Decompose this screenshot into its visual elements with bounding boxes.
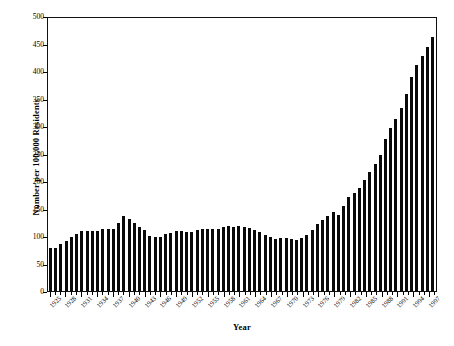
bar bbox=[305, 235, 308, 291]
plot-area bbox=[47, 17, 437, 292]
bar bbox=[285, 238, 288, 291]
x-tick-mark bbox=[218, 292, 219, 295]
bar bbox=[190, 232, 193, 291]
bar bbox=[384, 139, 387, 291]
x-tick-label: 1976 bbox=[316, 295, 330, 309]
bar bbox=[279, 238, 282, 291]
x-axis-title: Year bbox=[47, 322, 437, 332]
bar bbox=[405, 94, 408, 291]
x-tick-mark bbox=[202, 292, 203, 295]
x-tick-label: 1994 bbox=[411, 295, 425, 309]
bar bbox=[326, 216, 329, 291]
x-tick-label: 1988 bbox=[380, 295, 394, 309]
bar bbox=[201, 229, 204, 291]
x-tick-mark bbox=[60, 292, 61, 295]
bar bbox=[107, 229, 110, 291]
bar bbox=[169, 233, 172, 291]
bar bbox=[269, 237, 272, 291]
x-tick-mark bbox=[108, 292, 109, 295]
bar bbox=[96, 231, 99, 291]
bar bbox=[128, 219, 131, 291]
x-tick-mark bbox=[139, 292, 140, 295]
bar bbox=[426, 47, 429, 291]
bar bbox=[112, 229, 115, 291]
x-tick-label: 1982 bbox=[348, 295, 362, 309]
bar bbox=[295, 240, 298, 291]
bar bbox=[431, 37, 434, 291]
x-tick-label: 1970 bbox=[285, 295, 299, 309]
x-tick-mark bbox=[392, 292, 393, 295]
bar-series bbox=[48, 18, 436, 291]
x-tick-label: 1952 bbox=[190, 295, 204, 309]
bar bbox=[374, 164, 377, 291]
x-tick-label: 1985 bbox=[364, 295, 378, 309]
bar bbox=[159, 237, 162, 291]
bar bbox=[196, 230, 199, 291]
x-tick-mark bbox=[171, 292, 172, 295]
bar bbox=[353, 193, 356, 291]
bar bbox=[138, 227, 141, 291]
x-tick-label: 1943 bbox=[143, 295, 157, 309]
x-tick-mark bbox=[424, 292, 425, 295]
bar bbox=[117, 223, 120, 291]
bar bbox=[91, 231, 94, 291]
bar bbox=[65, 241, 68, 291]
bar bbox=[363, 180, 366, 291]
bar bbox=[253, 230, 256, 291]
bar bbox=[342, 206, 345, 291]
bar bbox=[274, 239, 277, 291]
x-tick-label: 1964 bbox=[253, 295, 267, 309]
x-tick-label: 1925 bbox=[48, 295, 62, 309]
bar bbox=[347, 197, 350, 291]
bar bbox=[389, 128, 392, 291]
x-tick-label: 1991 bbox=[395, 295, 409, 309]
bar bbox=[311, 230, 314, 291]
bar bbox=[237, 226, 240, 291]
x-tick-mark bbox=[155, 292, 156, 295]
bar bbox=[133, 223, 136, 291]
bar bbox=[80, 231, 83, 292]
bar bbox=[101, 229, 104, 291]
bar bbox=[70, 237, 73, 291]
bar bbox=[264, 235, 267, 291]
bar bbox=[143, 230, 146, 291]
x-tick-mark bbox=[313, 292, 314, 295]
bar bbox=[258, 232, 261, 291]
bar bbox=[86, 231, 89, 292]
x-tick-label: 1940 bbox=[127, 295, 141, 309]
bar bbox=[379, 155, 382, 291]
x-tick-label: 1979 bbox=[332, 295, 346, 309]
bar bbox=[211, 229, 214, 291]
x-tick-mark bbox=[234, 292, 235, 295]
x-tick-mark bbox=[297, 292, 298, 295]
bar bbox=[164, 234, 167, 291]
x-tick-mark bbox=[329, 292, 330, 295]
x-tick-label: 1934 bbox=[95, 295, 109, 309]
bar bbox=[75, 234, 78, 291]
bar bbox=[227, 226, 230, 291]
bar bbox=[154, 237, 157, 291]
bar bbox=[337, 215, 340, 291]
bar bbox=[148, 236, 151, 291]
x-tick-label: 1928 bbox=[63, 295, 77, 309]
bar bbox=[321, 220, 324, 291]
bar bbox=[175, 231, 178, 291]
x-tick-mark bbox=[92, 292, 93, 295]
bar bbox=[217, 229, 220, 291]
bar bbox=[59, 244, 62, 291]
bar bbox=[222, 227, 225, 291]
x-tick-label: 1973 bbox=[301, 295, 315, 309]
bar bbox=[368, 172, 371, 291]
x-tick-mark bbox=[76, 292, 77, 295]
x-tick-label: 1955 bbox=[206, 295, 220, 309]
x-tick-mark bbox=[361, 292, 362, 295]
x-tick-mark bbox=[345, 292, 346, 295]
bar bbox=[400, 108, 403, 291]
bar bbox=[54, 248, 57, 291]
bar bbox=[300, 238, 303, 291]
x-tick-label: 1937 bbox=[111, 295, 125, 309]
chart-container: Number per 100,000 Residents 05010015020… bbox=[0, 0, 454, 346]
x-tick-label: 1961 bbox=[237, 295, 251, 309]
bar bbox=[332, 212, 335, 291]
bar bbox=[394, 119, 397, 291]
